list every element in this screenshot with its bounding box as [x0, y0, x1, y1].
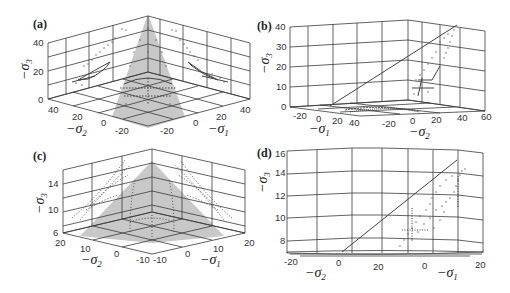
panel-d-label: (d): [257, 146, 272, 160]
panel-c-label: (c): [33, 149, 46, 163]
panel-a-xtick: 0: [101, 117, 106, 128]
panel-b-ytick: -20: [382, 118, 396, 129]
panel-b-label: (b): [257, 19, 272, 33]
panel-d-ylabel: −σ1: [437, 265, 458, 282]
panel-d-ztick: 10: [275, 212, 286, 223]
panel-a-ztick: 0: [38, 94, 43, 105]
panel-c-ytick: 20: [244, 237, 255, 248]
panel-a-xlabel: −σ2: [66, 121, 87, 138]
panel-a-cone-surface: [112, 14, 185, 128]
panel-d-xtick: -20: [284, 256, 298, 267]
panel-d-ztick: 14: [275, 167, 286, 178]
panel-d-ytick: 0: [422, 260, 427, 271]
panel-b: (b) 40 30 20 10 0 −σ3 -20 0 20 40 −σ1 -2…: [257, 19, 492, 141]
panel-c-ztick: 14: [48, 178, 59, 189]
panel-b-xtick: 20: [332, 115, 343, 126]
svg-text:−σ3: −σ3: [255, 172, 272, 193]
panel-a-label: (a): [33, 17, 47, 31]
panel-b-ytick: 20: [431, 114, 442, 125]
panel-c-xtick: 20: [55, 237, 66, 248]
panel-b-ytick: 60: [481, 111, 492, 122]
panel-b-ztick: 10: [276, 81, 287, 92]
panel-b-ztick: 0: [281, 101, 286, 112]
panel-a-ytick: 40: [240, 104, 251, 115]
panel-a-ytick: 0: [193, 117, 198, 128]
panel-a-scatter-right: [171, 29, 228, 82]
panel-b-ytick: 40: [457, 112, 468, 123]
panel-d-xtick: 20: [373, 261, 384, 272]
panel-a-zlabel: −σ3: [17, 59, 34, 80]
svg-text:−σ3: −σ3: [17, 59, 34, 80]
panel-d-ytick: 20: [475, 259, 486, 270]
panel-a-xtick: -20: [115, 125, 129, 136]
panel-d-zlabel: −σ3: [255, 172, 272, 193]
panel-b-hydrostatic-line: [330, 25, 457, 106]
panel-d-xlabel: −σ2: [305, 265, 326, 282]
panel-c-xlabel: −σ2: [81, 252, 102, 269]
panel-b-ztick: 40: [275, 21, 286, 32]
panel-c-ytick: -10: [153, 254, 167, 265]
panel-d-xtick: 0: [336, 257, 341, 268]
panel-b-xtick: 40: [349, 117, 360, 128]
panel-c-xtick: -10: [136, 254, 150, 265]
panel-a-xtick: 40: [48, 104, 59, 115]
panel-d-ztick: 12: [275, 190, 286, 201]
panel-a: (a) 40 20 0 −σ3 40 20 0 -20 −σ2 -20 0 20…: [17, 14, 251, 138]
panel-c-zlabel: −σ3: [32, 193, 49, 214]
panel-b-ztick: 30: [276, 41, 287, 52]
panel-b-grid: [290, 20, 485, 116]
svg-text:−σ3: −σ3: [32, 193, 49, 214]
panel-b-scatter: [345, 29, 455, 112]
panel-a-ztick: 20: [33, 66, 44, 77]
panel-b-ylabel: −σ2: [409, 124, 430, 141]
panel-d-ztick: 8: [280, 235, 285, 246]
figure-canvas: (a) 40 20 0 −σ3 40 20 0 -20 −σ2 -20 0 20…: [0, 0, 510, 293]
panel-c: (c) 14 10 6 −σ3 20 10 0 -10 −σ2 -10 0 10…: [32, 149, 255, 269]
panel-b-xtick: -20: [293, 110, 307, 121]
svg-text:−σ3: −σ3: [257, 53, 274, 74]
panel-d-ztick: 16: [275, 148, 286, 159]
panel-b-xlabel: −σ1: [309, 121, 330, 138]
panel-a-ztick: 40: [33, 37, 44, 48]
panel-c-ztick: 10: [48, 204, 59, 215]
panel-c-ylabel: −σ1: [200, 252, 221, 269]
panel-b-zlabel: −σ3: [257, 53, 274, 74]
panel-d: (d) 16 14 12 10 8 −σ3 -20 0 20 −σ2 0 20 …: [255, 146, 486, 282]
panel-a-ylabel: −σ1: [208, 121, 229, 138]
panel-b-ztick: 20: [276, 61, 287, 72]
panel-c-xtick: 0: [114, 248, 119, 259]
panel-c-ytick: 0: [185, 248, 190, 259]
panel-a-ytick: -20: [160, 125, 174, 136]
panel-d-grid: [287, 148, 483, 256]
